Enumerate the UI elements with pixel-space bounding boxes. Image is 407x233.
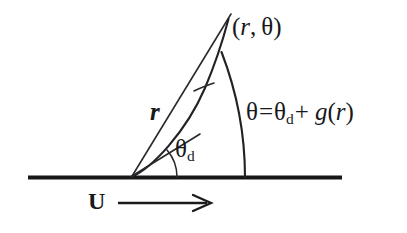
equation-func-open: (: [327, 98, 335, 125]
equation-plus: +: [294, 98, 310, 125]
equation-theta: θ: [274, 98, 286, 125]
point-radius-symbol: r: [240, 13, 250, 40]
point-angle-symbol: θ: [261, 13, 273, 40]
figure-root: (r, θ) θ=θd+ g(r) r θd U: [0, 0, 407, 233]
equation-equals: =: [258, 98, 274, 125]
theta-d-label: θd: [175, 136, 195, 164]
point-label: (r, θ): [232, 14, 282, 39]
theta-d-symbol: θ: [175, 135, 187, 162]
equation-label: θ=θd+ g(r): [246, 99, 354, 127]
theta-total-arc: [222, 52, 246, 177]
equation-function-name: g: [315, 98, 328, 125]
flow-velocity-label: U: [88, 189, 105, 213]
point-comma: ,: [250, 13, 256, 40]
equation-func-close: ): [346, 98, 354, 125]
equation-func-arg: r: [336, 98, 346, 125]
point-close-paren: ): [273, 13, 281, 40]
theta-d-subscript: d: [187, 147, 195, 164]
equation-lhs: θ: [246, 98, 258, 125]
radius-label: r: [150, 99, 160, 124]
equation-theta-subscript: d: [286, 110, 294, 127]
